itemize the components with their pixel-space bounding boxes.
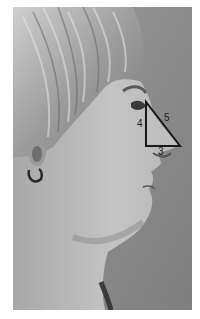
profile-photo: 4 5 3	[13, 7, 192, 310]
label-vertical-side: 4	[137, 119, 143, 129]
label-horizontal-side: 3	[158, 147, 164, 157]
label-hypotenuse: 5	[164, 113, 170, 123]
photo-illustration	[13, 7, 192, 310]
